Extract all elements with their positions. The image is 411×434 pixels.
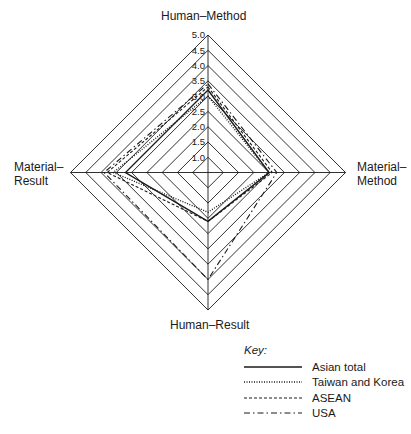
tick-label: 4.0 [192, 60, 205, 71]
axis-label-material-result-line2: Result [14, 174, 63, 188]
axis-label-material-method-line2: Method [357, 174, 406, 188]
tick-label: 4.5 [192, 45, 205, 56]
tick-label: 3.5 [192, 75, 205, 86]
scale-ticks: 1.01.52.02.53.03.54.04.55.0 [192, 29, 205, 162]
axis-label-human-method: Human–Method [161, 9, 246, 23]
legend-item-taiwan-korea: Taiwan and Korea [244, 375, 411, 391]
tick-label: 5.0 [192, 29, 205, 40]
legend: Key: Asian total Taiwan and Korea ASEAN … [244, 344, 411, 421]
axis-label-human-result: Human–Result [170, 318, 249, 332]
solid-line-icon [244, 363, 302, 371]
tick-label: 2.0 [192, 121, 205, 132]
axis-label-material-result: Material– Result [14, 160, 63, 188]
dashed-line-icon [244, 394, 302, 402]
legend-label: Taiwan and Korea [312, 376, 404, 388]
legend-label: Asian total [312, 361, 366, 373]
axis-label-material-result-line1: Material– [14, 160, 63, 174]
dash-dot-line-icon [244, 409, 302, 417]
axis-label-material-method-line1: Material– [357, 160, 406, 174]
tick-label: 1.5 [192, 136, 205, 147]
legend-title: Key: [244, 344, 411, 356]
series-asean [107, 87, 272, 221]
tick-label: 1.0 [192, 152, 205, 163]
tick-label: 2.5 [192, 106, 205, 117]
dotted-line-icon [244, 378, 302, 386]
axis-label-material-method: Material– Method [357, 160, 406, 188]
legend-label: ASEAN [312, 392, 351, 404]
radar-grid [70, 35, 345, 310]
tick-label: 3.0 [192, 91, 205, 102]
legend-item-usa: USA [244, 406, 411, 422]
legend-item-asian-total: Asian total [244, 359, 411, 375]
legend-item-asean: ASEAN [244, 390, 411, 406]
legend-label: USA [312, 407, 336, 419]
